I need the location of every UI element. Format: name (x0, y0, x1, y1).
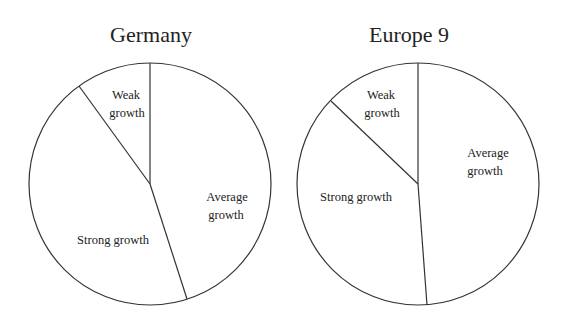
slice-label-strong-growth: Strong growth (77, 233, 150, 247)
slice-label-weak-growth-line2: growth (364, 106, 400, 120)
germany-pie-chart: Germany Weak growth Average growth Stron… (29, 22, 271, 305)
chart-title-europe9: Europe 9 (369, 22, 449, 47)
chart-title-germany: Germany (110, 22, 192, 47)
slice-label-weak-growth-line2: growth (109, 106, 145, 120)
slice-label-strong-growth: Strong growth (320, 190, 393, 204)
slice-label-weak-growth: Weak (367, 88, 396, 102)
slice-label-average-growth: Average (467, 146, 509, 160)
slice-label-average-growth: Average (206, 190, 248, 204)
slice-label-average-growth-line2: growth (467, 164, 503, 178)
pie-charts-figure: Germany Weak growth Average growth Stron… (0, 0, 565, 319)
europe9-pie-chart: Europe 9 Weak growth Average growth Stro… (297, 22, 539, 305)
slice-label-average-growth-line2: growth (208, 208, 244, 222)
slice-label-weak-growth: Weak (112, 88, 141, 102)
